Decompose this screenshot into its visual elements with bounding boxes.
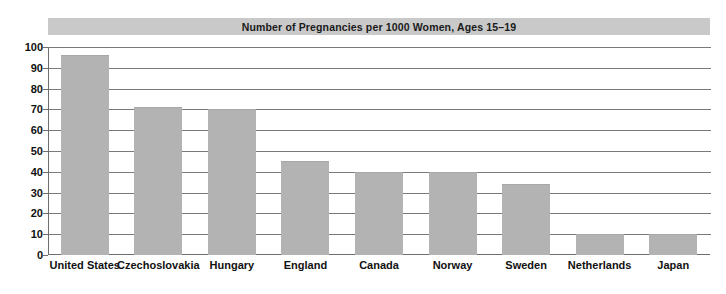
chart-title: Number of Pregnancies per 1000 Women, Ag… bbox=[242, 21, 516, 33]
y-tick-label: 50 bbox=[0, 145, 43, 157]
plot-area bbox=[48, 47, 710, 255]
gridline bbox=[49, 213, 711, 214]
y-tick-label: 0 bbox=[0, 249, 43, 261]
x-tick-label: England bbox=[284, 259, 327, 271]
y-tick-label: 30 bbox=[0, 187, 43, 199]
y-tick-label: 40 bbox=[0, 166, 43, 178]
x-tick-label: Netherlands bbox=[568, 259, 632, 271]
gridline bbox=[49, 151, 711, 152]
gridline bbox=[49, 47, 711, 48]
y-tick-label: 100 bbox=[0, 41, 43, 53]
y-tick-label: 20 bbox=[0, 207, 43, 219]
x-tick-label: Norway bbox=[433, 259, 473, 271]
chart-title-banner: Number of Pregnancies per 1000 Women, Ag… bbox=[48, 18, 710, 35]
y-tick-label: 60 bbox=[0, 124, 43, 136]
gridline bbox=[49, 234, 711, 235]
x-tick-label: United States bbox=[50, 259, 120, 271]
x-tick-label: Japan bbox=[657, 259, 689, 271]
gridline bbox=[49, 130, 711, 131]
x-tick-label: Sweden bbox=[505, 259, 547, 271]
x-tick-label: Czechoslovakia bbox=[117, 259, 200, 271]
gridline bbox=[49, 109, 711, 110]
y-tick-label: 80 bbox=[0, 83, 43, 95]
y-tick-mark bbox=[43, 255, 48, 256]
y-axis: 0102030405060708090100 bbox=[0, 47, 43, 255]
y-tick-label: 10 bbox=[0, 228, 43, 240]
x-tick-label: Hungary bbox=[210, 259, 255, 271]
y-tick-label: 70 bbox=[0, 103, 43, 115]
gridline bbox=[49, 172, 711, 173]
x-tick-label: Canada bbox=[359, 259, 399, 271]
gridline bbox=[49, 193, 711, 194]
x-axis: United StatesCzechoslovakiaHungaryEnglan… bbox=[48, 259, 710, 279]
bar-chart-figure: Number of Pregnancies per 1000 Women, Ag… bbox=[0, 0, 726, 294]
gridline bbox=[49, 68, 711, 69]
y-tick-label: 90 bbox=[0, 62, 43, 74]
gridline bbox=[49, 89, 711, 90]
